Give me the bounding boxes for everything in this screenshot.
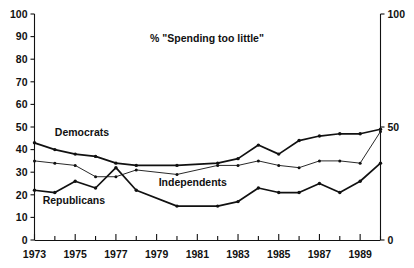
y-tick-label-left: 60 — [16, 98, 28, 110]
x-tick-label: 1981 — [186, 248, 210, 260]
data-point-republicans — [236, 200, 239, 203]
chart-container: 0102030405060708090100 050100 1973197519… — [0, 0, 414, 268]
data-point-independents — [338, 159, 341, 162]
data-point-independents — [114, 175, 117, 178]
x-tick-label: 1973 — [23, 248, 47, 260]
data-point-independents — [318, 159, 321, 162]
y-axis-left-ticks: 0102030405060708090100 — [10, 8, 35, 246]
x-tick-label: 1989 — [348, 248, 372, 260]
y-tick-label-left: 0 — [22, 234, 28, 246]
data-point-republicans — [379, 161, 382, 164]
data-point-independents — [237, 164, 240, 167]
data-point-independents — [33, 159, 36, 162]
data-point-independents — [359, 162, 362, 165]
data-point-democrats — [277, 152, 280, 155]
data-point-republicans — [135, 189, 138, 192]
y-tick-label-left: 100 — [10, 8, 28, 20]
x-tick-label: 1987 — [308, 248, 332, 260]
data-point-democrats — [94, 155, 97, 158]
data-point-independents — [216, 164, 219, 167]
data-point-democrats — [53, 148, 56, 151]
data-point-republicans — [318, 182, 321, 185]
data-point-republicans — [74, 180, 77, 183]
y-tick-label-left: 10 — [16, 211, 28, 223]
data-point-republicans — [33, 189, 36, 192]
series-label-republicans: Republicans — [43, 194, 106, 206]
data-point-independents — [135, 168, 138, 171]
series-label-independents: Independents — [159, 176, 227, 188]
series-line-independents — [35, 132, 381, 177]
data-point-democrats — [358, 132, 361, 135]
y-tick-label-left: 80 — [16, 53, 28, 65]
chart-title: % "Spending too little" — [150, 32, 264, 44]
data-point-republicans — [277, 191, 280, 194]
data-point-democrats — [257, 143, 260, 146]
data-point-independents — [53, 162, 56, 165]
data-point-democrats — [33, 141, 36, 144]
data-point-democrats — [297, 139, 300, 142]
line-chart: 0102030405060708090100 050100 1973197519… — [0, 0, 414, 268]
data-point-republicans — [94, 186, 97, 189]
y-tick-label-right: 0 — [388, 234, 394, 246]
data-point-independents — [298, 166, 301, 169]
data-point-democrats — [338, 132, 341, 135]
data-point-independents — [277, 164, 280, 167]
data-point-independents — [257, 159, 260, 162]
data-point-republicans — [216, 204, 219, 207]
y-tick-label-left: 20 — [16, 189, 28, 201]
data-point-democrats — [318, 134, 321, 137]
data-point-republicans — [257, 186, 260, 189]
x-axis-ticks: 197319751977197919811983198519871989 — [23, 234, 381, 260]
x-tick-label: 1985 — [267, 248, 291, 260]
x-tick-label: 1975 — [64, 248, 88, 260]
y-tick-label-left: 90 — [16, 30, 28, 42]
data-point-republicans — [297, 191, 300, 194]
data-point-republicans — [114, 166, 117, 169]
data-point-democrats — [236, 157, 239, 160]
data-point-democrats — [175, 164, 178, 167]
data-point-independents — [379, 130, 382, 133]
series-label-democrats: Democrats — [55, 126, 109, 138]
y-tick-label-left: 30 — [16, 166, 28, 178]
x-tick-label: 1979 — [145, 248, 169, 260]
data-point-democrats — [114, 161, 117, 164]
y-axis-right-ticks: 050100 — [381, 8, 406, 246]
y-tick-label-left: 50 — [16, 121, 28, 133]
y-tick-label-left: 70 — [16, 76, 28, 88]
data-point-democrats — [74, 152, 77, 155]
x-tick-label: 1977 — [104, 248, 128, 260]
data-point-independents — [74, 164, 77, 167]
y-tick-label-right: 100 — [388, 8, 406, 20]
data-point-independents — [94, 175, 97, 178]
data-point-republicans — [175, 204, 178, 207]
y-tick-label-left: 40 — [16, 143, 28, 155]
data-point-republicans — [338, 191, 341, 194]
data-point-democrats — [135, 164, 138, 167]
data-point-republicans — [358, 180, 361, 183]
x-tick-label: 1983 — [226, 248, 250, 260]
y-tick-label-right: 50 — [388, 121, 400, 133]
